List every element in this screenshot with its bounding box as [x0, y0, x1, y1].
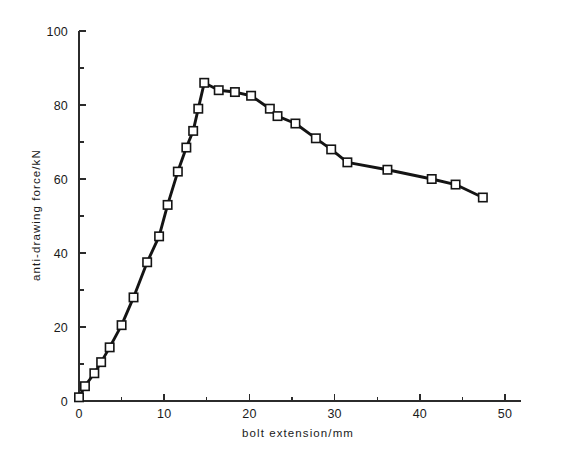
line-chart: 01020304050 020406080100 bolt extension/…: [0, 0, 574, 461]
data-markers: [75, 79, 487, 402]
y-tick-label: 100: [47, 25, 68, 39]
data-point-marker: [97, 358, 105, 366]
data-point-marker: [90, 369, 98, 377]
data-point-marker: [81, 382, 89, 390]
y-tick-label: 20: [54, 321, 68, 335]
data-point-marker: [174, 167, 182, 175]
data-point-marker: [129, 293, 137, 301]
x-axis-title: bolt extension/mm: [242, 427, 354, 439]
y-axis-title: anti-drawing force/kN: [30, 149, 42, 281]
data-point-marker: [163, 201, 171, 209]
data-point-marker: [105, 343, 113, 351]
data-point-marker: [155, 232, 163, 240]
x-tick-label: 30: [327, 407, 341, 421]
data-point-marker: [428, 175, 436, 183]
x-tick-label: 10: [157, 407, 171, 421]
chart-figure: 01020304050 020406080100 bolt extension/…: [0, 0, 574, 461]
y-tick-label: 80: [54, 99, 68, 113]
x-tick-label: 0: [75, 407, 82, 421]
x-tick-label: 20: [242, 407, 256, 421]
data-point-marker: [451, 180, 459, 188]
y-tick-label: 0: [61, 395, 68, 409]
data-point-marker: [117, 321, 125, 329]
data-point-marker: [273, 112, 281, 120]
data-point-marker: [75, 393, 83, 401]
x-axis-tick-labels: 01020304050: [75, 407, 512, 421]
data-point-marker: [182, 143, 190, 151]
data-point-marker: [383, 166, 391, 174]
y-axis-ticks: [79, 31, 86, 401]
y-tick-label: 60: [54, 173, 68, 187]
data-point-marker: [312, 134, 320, 142]
y-axis-tick-labels: 020406080100: [47, 25, 68, 409]
series-line: [79, 83, 483, 398]
data-point-marker: [200, 79, 208, 87]
data-point-marker: [215, 86, 223, 94]
x-tick-label: 50: [498, 407, 512, 421]
y-tick-label: 40: [54, 247, 68, 261]
data-point-marker: [194, 105, 202, 113]
data-series: [79, 83, 483, 398]
data-point-marker: [143, 258, 151, 266]
x-tick-label: 40: [413, 407, 427, 421]
data-point-marker: [189, 127, 197, 135]
data-point-marker: [247, 92, 255, 100]
data-point-marker: [291, 119, 299, 127]
data-point-marker: [327, 145, 335, 153]
data-point-marker: [479, 193, 487, 201]
axes: [79, 31, 521, 401]
data-point-marker: [343, 158, 351, 166]
x-axis-ticks: [79, 394, 505, 401]
data-point-marker: [231, 88, 239, 96]
